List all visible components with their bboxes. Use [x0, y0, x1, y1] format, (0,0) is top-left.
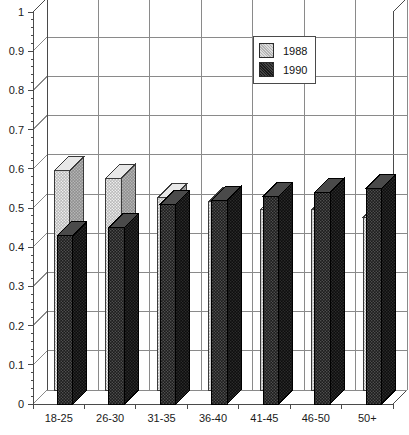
bar-1990-18-25[interactable] — [58, 221, 87, 404]
y-tick-label: 0.2 — [9, 320, 24, 332]
y-tick-label: 0.1 — [9, 359, 24, 371]
gridline-depth — [33, 312, 47, 326]
y-tick-label: 0.9 — [9, 45, 24, 57]
x-tick-label: 31-35 — [136, 412, 187, 434]
bar-front-face — [263, 196, 278, 404]
top-left-depth-line — [33, 0, 47, 12]
bar-front-face — [212, 200, 227, 404]
y-tick-label: 0.8 — [9, 84, 24, 96]
y-tick-label: 0.6 — [9, 163, 24, 175]
gridline-depth — [33, 155, 47, 169]
bar-side-face — [279, 182, 293, 404]
bar-side-face — [382, 174, 396, 404]
gridline-depth — [33, 116, 47, 130]
gridline-depth — [33, 233, 47, 247]
x-tick-label: 36-40 — [187, 412, 238, 434]
bar-front-face — [58, 235, 73, 404]
gridline-depth — [33, 194, 47, 208]
bar-1990-41-45[interactable] — [263, 182, 292, 404]
x-tick-label: 18-25 — [33, 412, 84, 434]
y-tick-label: 0.4 — [9, 241, 24, 253]
square-swatch-icon — [259, 43, 274, 58]
y-axis-minor-ticks — [28, 12, 33, 404]
bar-side-face — [330, 178, 344, 404]
plot-svg — [23, 2, 403, 414]
y-tick-label: 0.7 — [9, 124, 24, 136]
legend-item-label: 1988 — [283, 45, 307, 57]
legend-item-label: 1990 — [283, 64, 307, 76]
plot-area — [33, 12, 393, 404]
x-axis-ticks — [33, 404, 393, 409]
y-tick-label: 0.5 — [9, 202, 24, 214]
y-tick-label: 0.3 — [9, 280, 24, 292]
bar-1990-46-50[interactable] — [315, 178, 345, 404]
bar-chart: percentage of respondents by age group 1… — [0, 0, 409, 435]
legend-item[interactable]: 1990 — [259, 60, 307, 79]
x-axis-labels: 18-2526-3031-3536-4041-4546-5050+ — [33, 412, 393, 434]
gridline-depth — [33, 272, 47, 286]
x-tick-label: 41-45 — [239, 412, 290, 434]
x-tick-label: 26-30 — [84, 412, 135, 434]
x-tick-label: 50+ — [342, 412, 393, 434]
gridline-depth — [33, 76, 47, 90]
bar-front-face — [160, 204, 176, 404]
bar-side-face — [73, 221, 87, 404]
chart-legend: 19881990 — [253, 36, 316, 84]
bar-side-face — [176, 190, 190, 404]
bar-1990-36-40[interactable] — [212, 186, 241, 404]
square-swatch-icon — [259, 62, 274, 77]
bar-1990-50+[interactable] — [366, 174, 395, 404]
bar-front-face — [366, 188, 381, 404]
legend-item[interactable]: 1988 — [259, 41, 307, 60]
bar-side-face — [124, 214, 138, 404]
bars-layer — [55, 157, 396, 405]
gridline-depth — [33, 37, 47, 51]
x-tick-label: 46-50 — [290, 412, 341, 434]
gridline-depth — [33, 351, 47, 365]
bar-1990-31-35[interactable] — [160, 190, 190, 404]
bar-front-face — [315, 192, 331, 404]
bar-1990-26-30[interactable] — [109, 214, 138, 404]
bar-front-face — [109, 228, 124, 404]
bar-side-face — [227, 186, 241, 404]
